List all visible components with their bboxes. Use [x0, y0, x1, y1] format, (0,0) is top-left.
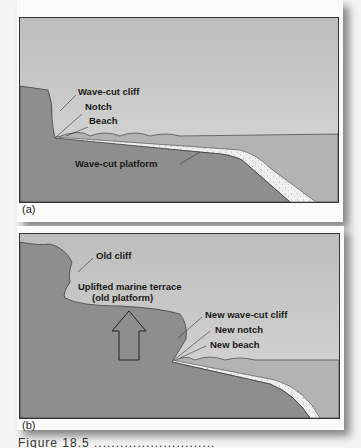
diagram-uplifted-marine-terrace: Old cliff Uplifted marine terrace (old p…: [19, 233, 340, 419]
cross-section-a: Wave-cut cliff Notch Beach Wave-cut plat…: [20, 18, 338, 202]
label-terrace-line2: (old platform): [92, 292, 153, 303]
figure-panel-b: Old cliff Uplifted marine terrace (old p…: [17, 226, 344, 430]
label-old-cliff: Old cliff: [96, 250, 132, 261]
label-new-wave-cut-cliff: New wave-cut cliff: [205, 309, 288, 320]
label-beach: Beach: [89, 115, 118, 126]
figure-panel-a: Wave-cut cliff Notch Beach Wave-cut plat…: [17, 0, 343, 222]
label-notch: Notch: [85, 101, 112, 112]
label-wave-cut-cliff: Wave-cut cliff: [78, 86, 140, 97]
figure-caption: Figure 18.5 ............................: [18, 438, 348, 448]
panel-label-a: (a): [22, 203, 35, 215]
cross-section-b: Old cliff Uplifted marine terrace (old p…: [20, 234, 339, 418]
panel-label-b: (b): [22, 419, 35, 431]
diagram-wave-cut-platform: Wave-cut cliff Notch Beach Wave-cut plat…: [19, 17, 339, 203]
label-terrace-line1: Uplifted marine terrace: [78, 281, 181, 292]
label-new-notch: New notch: [215, 324, 263, 335]
label-new-beach: New beach: [210, 339, 260, 350]
label-wave-cut-platform: Wave-cut platform: [75, 158, 158, 169]
